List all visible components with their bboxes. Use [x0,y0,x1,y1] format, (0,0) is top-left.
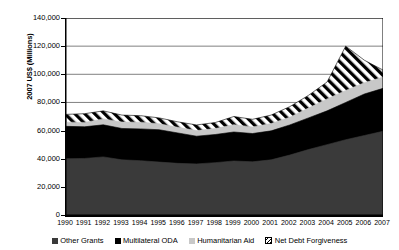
chart-canvas [66,18,383,215]
legend-item[interactable]: Net Debt Forgiveness [265,236,347,245]
legend-item[interactable]: Humanitarian Aid [189,236,255,245]
y-tick-label: 140,000 [4,14,60,22]
legend-label: Other Grants [60,236,103,245]
chart-legend: Other GrantsMultilateral ODAHumanitarian… [0,236,399,245]
y-tick-label: 0 [4,211,60,219]
plot-area [65,18,383,217]
legend-label: Net Debt Forgiveness [275,236,348,245]
legend-swatch-icon [189,238,195,244]
y-tick-label: 20,000 [4,183,60,191]
legend-label: Humanitarian Aid [197,236,254,245]
y-tick-label: 60,000 [4,127,60,135]
legend-item[interactable]: Other Grants [52,236,104,245]
y-tick-label: 80,000 [4,98,60,106]
legend-label: Multilateral ODA [123,236,178,245]
x-tick-label: 2007 [367,219,397,227]
legend-item[interactable]: Multilateral ODA [115,236,178,245]
y-tick-label: 120,000 [4,42,60,50]
y-tick-label: 40,000 [4,155,60,163]
legend-swatch-icon [265,237,272,244]
series-layers [66,46,383,215]
legend-swatch-icon [115,238,121,244]
stacked-area-chart: 2007 US$ (Millions) 020,00040,00060,0008… [0,0,399,250]
y-tick-label: 100,000 [4,70,60,78]
legend-swatch-icon [52,238,58,244]
